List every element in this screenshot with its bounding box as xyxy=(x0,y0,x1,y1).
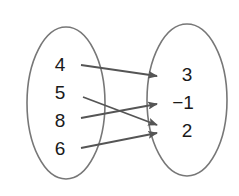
domain-value-4: 4 xyxy=(55,54,66,75)
range-value-neg1: −1 xyxy=(172,92,194,113)
domain-ellipse xyxy=(27,27,105,179)
domain-value-8: 8 xyxy=(55,110,66,131)
domain-value-6: 6 xyxy=(55,138,66,159)
range-value-3: 3 xyxy=(182,64,193,85)
arrow-4-to-3 xyxy=(81,65,157,76)
mapping-diagram: 4 5 8 6 3 −1 2 xyxy=(0,0,239,196)
range-value-2: 2 xyxy=(182,120,193,141)
domain-value-5: 5 xyxy=(55,82,66,103)
arrow-8-to-neg1 xyxy=(81,104,157,118)
arrow-6-to-2 xyxy=(81,133,157,148)
